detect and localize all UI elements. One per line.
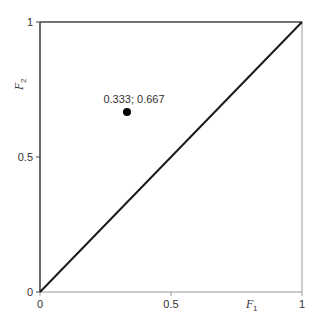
y-tick-label-1: 1 (27, 16, 33, 28)
diagonal-line (40, 22, 302, 292)
chart: 1 0.5 0 0 0.5 1 F 1 F 2 0.333; 0.667 (0, 0, 320, 323)
y-tick-label-0: 0 (27, 286, 33, 298)
x-tick-label-1: 1 (299, 298, 305, 310)
x-tick-label-0.5: 0.5 (163, 298, 178, 310)
y-axis-title: F 2 (12, 78, 28, 91)
data-point (123, 108, 131, 116)
svg-text:2: 2 (19, 78, 28, 83)
x-ticks (40, 292, 302, 296)
x-tick-label-0: 0 (37, 298, 43, 310)
point-label: 0.333; 0.667 (103, 93, 164, 105)
x-axis-title: F 1 (245, 297, 258, 313)
y-tick-label-0.5: 0.5 (18, 151, 33, 163)
svg-text:1: 1 (253, 304, 258, 313)
